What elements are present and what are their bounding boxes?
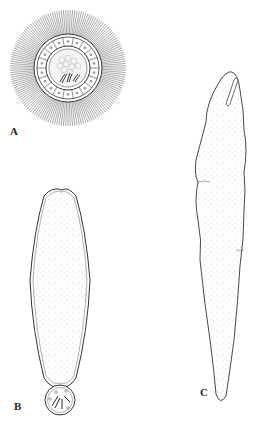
label-a: A xyxy=(10,125,18,137)
panel-b-sac xyxy=(30,189,90,415)
panel-c-elongate-body xyxy=(195,72,246,401)
panel-a-cross-section xyxy=(10,10,126,126)
scientific-illustration: A B C xyxy=(0,0,268,422)
label-c: C xyxy=(200,386,208,398)
label-b: B xyxy=(14,400,22,412)
